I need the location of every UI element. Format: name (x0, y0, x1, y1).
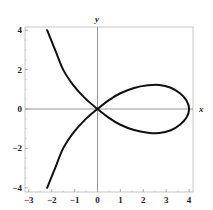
y-axis-label: y (94, 14, 100, 24)
x-tick-label: −2 (47, 195, 57, 205)
x-tick-label: 1 (118, 195, 123, 205)
y-tick-label: 2 (18, 65, 23, 75)
plot-canvas: −3−2−101234−4−2024 x y (0, 0, 213, 210)
x-axis-label: x (198, 104, 204, 114)
x-tick-label: −3 (24, 195, 34, 205)
x-tick-label: 3 (164, 195, 169, 205)
tick-labels: −3−2−101234−4−2024 (12, 25, 191, 205)
tick-marks (25, 30, 189, 192)
y-tick-label: 4 (18, 25, 23, 35)
x-tick-label: −1 (70, 195, 80, 205)
x-tick-label: 0 (95, 195, 100, 205)
y-tick-label: −4 (12, 183, 22, 193)
x-tick-label: 2 (141, 195, 146, 205)
y-tick-label: 0 (18, 104, 23, 114)
x-tick-label: 4 (187, 195, 192, 205)
y-tick-label: −2 (12, 143, 22, 153)
plot-frame (25, 27, 193, 192)
